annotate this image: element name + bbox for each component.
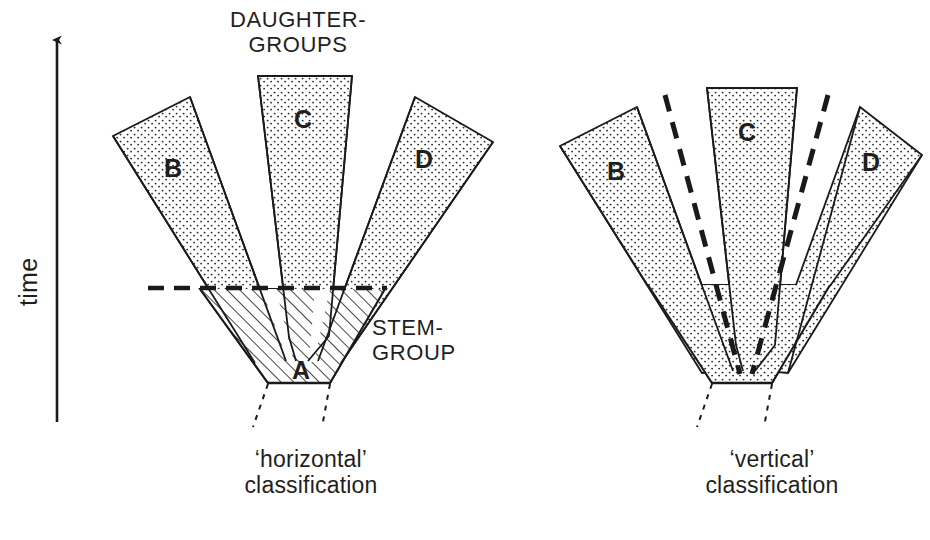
daughter-groups-line2: GROUPS: [249, 32, 348, 57]
stem-group-label: STEM-GROUP: [372, 316, 502, 365]
time-axis-label: time: [14, 258, 42, 306]
caption-left-line2: classification: [244, 472, 377, 498]
branch-label-b-right: B: [596, 157, 636, 185]
caption-right-line2: classification: [705, 472, 838, 498]
branch-label-c-right: C: [727, 118, 767, 146]
stem-continuation-right: [697, 384, 772, 427]
daughter-groups-label: DAUGHTER-GROUPS: [198, 8, 398, 57]
caption-vertical-classification: ‘vertical’classification: [612, 447, 930, 499]
daughter-groups-line1: DAUGHTER-: [230, 7, 366, 32]
stem-continuation-left: [253, 384, 330, 427]
stem-group-line1: STEM-: [372, 315, 443, 340]
branch-label-c-left: C: [283, 105, 323, 133]
figure-root: DAUGHTER-GROUPS STEM-GROUP time B C D A …: [0, 0, 930, 540]
caption-right-line1: ‘vertical’: [729, 446, 814, 472]
stem-group-line2: GROUP: [372, 340, 456, 365]
branch-label-d-right: D: [851, 148, 891, 176]
caption-horizontal-classification: ‘horizontal’classification: [146, 447, 476, 499]
branch-label-b-left: B: [153, 154, 193, 182]
caption-left-line1: ‘horizontal’: [255, 446, 367, 472]
branch-label-a-left: A: [281, 356, 321, 384]
branch-label-d-left: D: [404, 145, 444, 173]
